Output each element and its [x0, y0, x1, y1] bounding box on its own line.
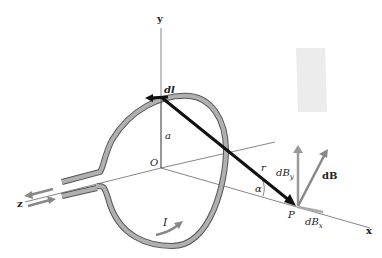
r-label: r	[261, 163, 266, 173]
back-axis-line	[161, 142, 275, 168]
z-arrow-out-head	[24, 191, 33, 199]
dBy-arrowhead	[293, 145, 303, 153]
current-loop-fill	[62, 96, 226, 246]
biot-savart-diagram: y x z O dl a r α P dBy dB dBx I	[0, 0, 382, 258]
z-axis-label: z	[17, 199, 23, 209]
x-axis-label: x	[366, 226, 372, 236]
r-vector	[161, 97, 290, 201]
origin-label: O	[150, 158, 158, 168]
current-loop	[62, 96, 226, 246]
z-arrow-in-head	[47, 196, 56, 204]
field-component-box	[296, 48, 327, 112]
current-label: I	[163, 217, 167, 228]
dBx-subscript: x	[319, 222, 323, 230]
y-axis-label: y	[157, 14, 163, 24]
dB-vector	[298, 154, 325, 206]
dB-label: dB	[322, 171, 337, 181]
dl-label: dl	[164, 85, 175, 95]
z-arrow-in	[28, 200, 50, 206]
dBx-label: dBx	[305, 217, 323, 230]
alpha-label: α	[255, 184, 262, 194]
x-axis-line	[161, 168, 370, 228]
dBy-text: dB	[276, 167, 290, 178]
radius-label: a	[165, 131, 171, 141]
dBy-subscript: y	[290, 173, 294, 181]
point-p-label: P	[288, 210, 295, 220]
diagram-canvas	[0, 0, 382, 258]
z-arrow-out	[30, 189, 53, 195]
dl-arrowhead	[145, 94, 153, 102]
dBx-text: dB	[305, 216, 319, 227]
dBy-label: dBy	[276, 168, 294, 181]
dBx-vector	[298, 207, 323, 212]
